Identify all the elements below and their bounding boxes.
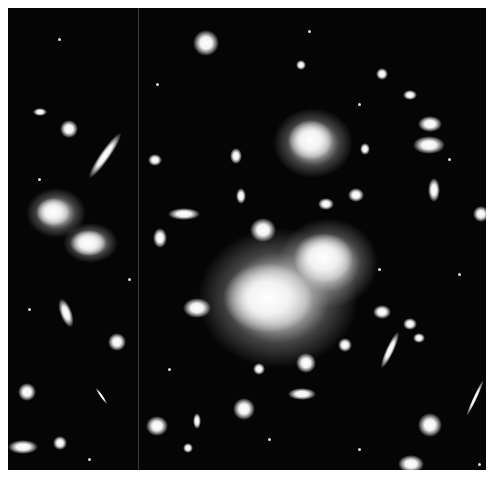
- star: [358, 448, 361, 451]
- galaxy: [418, 116, 442, 132]
- star: [88, 458, 91, 461]
- lensed-arc: [378, 330, 402, 370]
- galaxy: [318, 198, 334, 210]
- star: [458, 273, 461, 276]
- galaxy: [183, 443, 193, 453]
- galaxy: [296, 353, 316, 373]
- galaxy: [413, 136, 445, 154]
- galaxy: [153, 228, 167, 248]
- galaxy: [33, 108, 47, 116]
- galaxy: [296, 60, 306, 70]
- bright-galaxy: [293, 233, 353, 283]
- lensed-arc: [85, 130, 125, 181]
- galaxy: [373, 305, 391, 319]
- star: [448, 158, 451, 161]
- galaxy: [146, 416, 168, 436]
- star: [28, 308, 31, 311]
- galaxy: [70, 230, 106, 256]
- galaxy: [403, 90, 417, 100]
- galaxy-cluster-image: [8, 8, 486, 470]
- galaxy: [108, 333, 126, 351]
- lensed-arc: [95, 387, 109, 405]
- galaxy: [148, 154, 162, 166]
- galaxy: [418, 413, 442, 437]
- galaxy: [236, 188, 246, 204]
- galaxy: [360, 143, 370, 155]
- star: [168, 368, 171, 371]
- galaxy: [253, 363, 265, 375]
- star: [58, 38, 61, 41]
- star: [358, 103, 361, 106]
- galaxy: [193, 30, 219, 56]
- galaxy: [183, 298, 211, 318]
- galaxy: [338, 338, 352, 352]
- galaxy: [193, 413, 201, 429]
- star: [38, 178, 41, 181]
- galaxy: [428, 178, 440, 202]
- galaxy: [403, 318, 417, 330]
- galaxy: [233, 398, 255, 420]
- galaxy: [60, 120, 78, 138]
- star: [268, 438, 271, 441]
- galaxy: [413, 333, 425, 343]
- galaxy: [398, 455, 424, 470]
- galaxy: [230, 148, 242, 164]
- lensed-arc: [55, 297, 77, 329]
- plate-seam: [138, 8, 139, 470]
- bright-galaxy: [288, 120, 333, 160]
- galaxy: [168, 208, 200, 220]
- galaxy: [8, 440, 38, 454]
- star: [378, 268, 381, 271]
- star: [128, 278, 131, 281]
- galaxy: [18, 383, 36, 401]
- star: [478, 463, 481, 466]
- galaxy: [250, 218, 276, 242]
- galaxy: [348, 188, 364, 202]
- galaxy: [288, 388, 316, 400]
- galaxy: [376, 68, 388, 80]
- lensed-arc: [465, 379, 486, 417]
- galaxy: [36, 198, 70, 226]
- star: [156, 83, 159, 86]
- galaxy: [53, 436, 67, 450]
- galaxy: [473, 206, 486, 222]
- star: [308, 30, 311, 33]
